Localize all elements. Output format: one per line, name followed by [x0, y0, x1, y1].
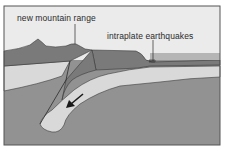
ocean-strip [150, 53, 220, 60]
earthquakes-label: intraplate earthquakes [107, 31, 193, 41]
mountain-label: new mountain range [17, 13, 96, 23]
